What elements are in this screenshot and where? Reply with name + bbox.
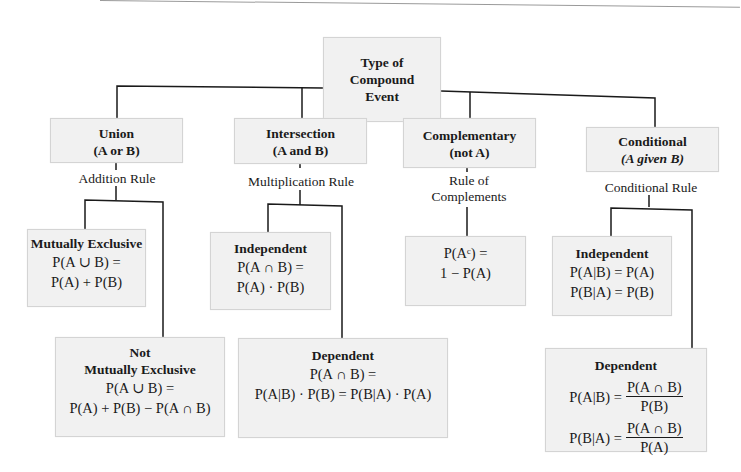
fraction-numerator: P(A ∩ B) <box>626 378 683 397</box>
fraction: P(A ∩ B) P(A) <box>626 419 683 456</box>
formula-lhs: P(B|A) = <box>569 428 622 448</box>
category-conditional-box: Conditional (A given B) <box>586 127 719 172</box>
leaf-dependent-conditional-box: Dependent P(A|B) = P(A ∩ B) P(B) P(B|A) … <box>545 348 707 452</box>
leaf-title: Dependent <box>239 347 447 364</box>
category-intersection-title: Intersection <box>235 125 366 142</box>
formula-line: P(A ∩ B) = <box>239 364 447 384</box>
rule-complements-label: Rule of Complements <box>410 173 528 205</box>
category-union-box: Union (A or B) <box>50 118 183 163</box>
formula-line: P(A ∪ B) = <box>28 252 145 272</box>
category-union-title: Union <box>51 125 182 142</box>
formula-line: P(B|A) = P(B) <box>553 282 671 302</box>
formula-line: P(A) · P(B) <box>211 277 330 297</box>
category-intersection-box: Intersection (A and B) <box>234 118 367 164</box>
fraction-numerator: P(A ∩ B) <box>626 419 683 438</box>
leaf-mutually-exclusive-box: Mutually Exclusive P(A ∪ B) = P(A) + P(B… <box>27 229 146 307</box>
category-intersection-subtitle: (A and B) <box>235 142 366 159</box>
formula-lhs: P(A|B) = <box>569 387 622 407</box>
fraction-denominator: P(B) <box>626 397 683 415</box>
rule-conditional-label: Conditional Rule <box>590 180 712 196</box>
category-complementary-box: Complementary (not A) <box>403 118 536 168</box>
formula-line: P(A) + P(B) <box>28 272 145 292</box>
leaf-title: Dependent <box>546 357 706 374</box>
root-title-line-2: Compound <box>324 71 440 88</box>
formula-line: P(A|B) · P(B) = P(B|A) · P(A) <box>239 384 447 404</box>
leaf-title: Mutually Exclusive <box>28 235 145 252</box>
category-union-subtitle: (A or B) <box>51 142 182 159</box>
leaf-title: Independent <box>553 245 671 262</box>
root-title-line-3: Event <box>324 88 440 105</box>
formula-line: P(A|B) = P(A) <box>553 262 671 282</box>
fraction-denominator: P(A) <box>626 438 683 456</box>
leaf-independent-conditional-box: Independent P(A|B) = P(A) P(B|A) = P(B) <box>552 236 672 316</box>
category-complementary-subtitle: (not A) <box>404 144 535 161</box>
rule-multiplication-label: Multiplication Rule <box>236 174 366 190</box>
leaf-title-line-2: Mutually Exclusive <box>56 361 224 378</box>
fraction: P(A ∩ B) P(B) <box>626 378 683 415</box>
rule-line: Complements <box>410 189 528 205</box>
rule-line: Rule of <box>410 173 528 189</box>
leaf-title-line-1: Not <box>56 344 224 361</box>
leaf-title: Independent <box>211 240 330 257</box>
leaf-not-mutually-exclusive-box: Not Mutually Exclusive P(A ∪ B) = P(A) +… <box>55 337 225 437</box>
formula-line: P(A ∩ B) = <box>211 257 330 277</box>
root-title-line-1: Type of <box>324 54 440 71</box>
formula-line: 1 − P(A) <box>406 263 525 283</box>
conditional-formula-a-given-b: P(A|B) = P(A ∩ B) P(B) <box>546 378 706 415</box>
conditional-formula-b-given-a: P(B|A) = P(A ∩ B) P(A) <box>546 419 706 456</box>
formula-line: P(Aᶜ) = <box>406 243 525 263</box>
formula-line: P(A) + P(B) − P(A ∩ B) <box>56 398 224 418</box>
formula-line: P(A ∪ B) = <box>56 378 224 398</box>
leaf-complement-box: P(Aᶜ) = 1 − P(A) <box>405 236 526 306</box>
category-complementary-title: Complementary <box>404 127 535 144</box>
rule-addition-label: Addition Rule <box>60 171 174 187</box>
leaf-dependent-intersection-box: Dependent P(A ∩ B) = P(A|B) · P(B) = P(B… <box>238 338 448 438</box>
root-node-box: Type of Compound Event <box>323 37 441 122</box>
category-conditional-title: Conditional <box>587 133 718 150</box>
category-conditional-subtitle: (A given B) <box>587 150 718 167</box>
leaf-independent-intersection-box: Independent P(A ∩ B) = P(A) · P(B) <box>210 232 331 310</box>
